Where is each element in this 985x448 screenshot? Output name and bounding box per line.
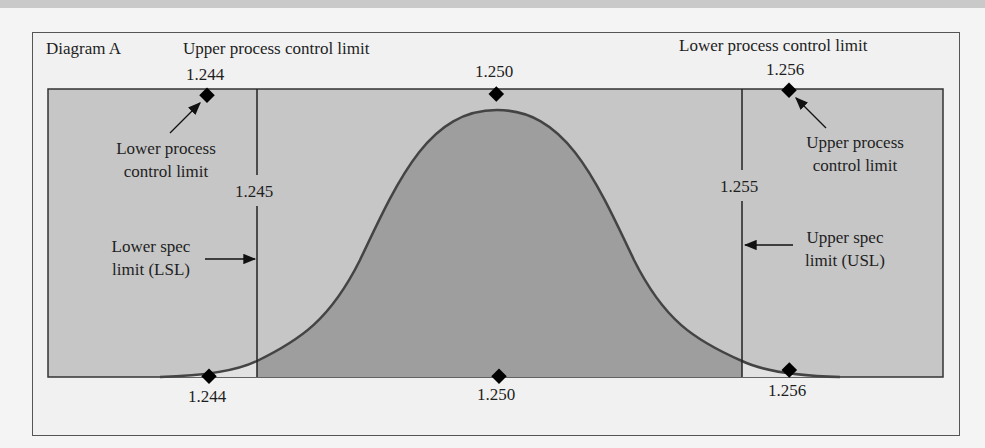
bottom-value-1250: 1.250 [477,385,515,405]
usl-label-line1: Upper spec [790,228,900,248]
header-left-label: Upper process control limit [183,39,370,59]
top-value-1256: 1.256 [766,60,804,80]
upper-pcl-label-line2: control limit [790,156,920,176]
usl-value: 1.255 [720,177,758,197]
usl-label-line2: limit (USL) [790,251,900,271]
upper-pcl-label-line1: Upper process [790,133,920,153]
bottom-value-1244: 1.244 [188,387,226,407]
top-value-1250: 1.250 [475,62,513,82]
header-right-label: Lower process control limit [679,36,867,56]
bottom-value-1256: 1.256 [768,381,806,401]
lower-pcl-label-line1: Lower process [96,139,236,159]
lower-pcl-label-line2: control limit [96,162,236,182]
top-value-1244: 1.244 [186,65,224,85]
diagram-title: Diagram A [46,39,121,59]
lsl-label-line2: limit (LSL) [96,260,206,280]
lsl-label-line1: Lower spec [96,237,206,257]
lsl-value: 1.245 [235,182,273,202]
